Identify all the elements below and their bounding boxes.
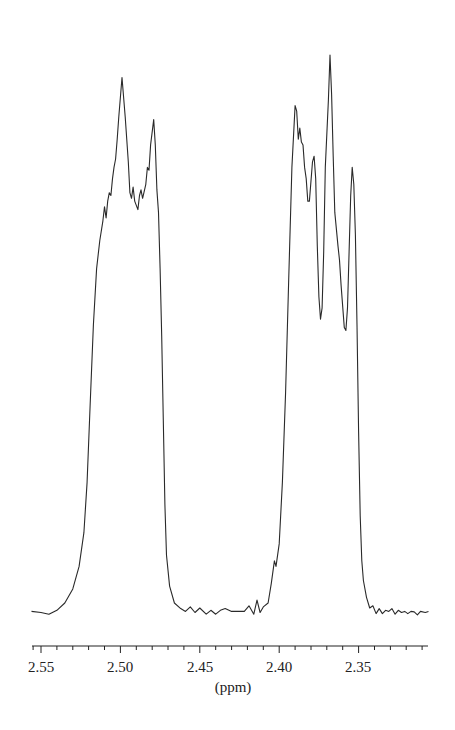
tick-label-2-40: 2.40 [266, 659, 292, 675]
x-axis-title: (ppm) [215, 679, 252, 696]
x-axis-ticks [33, 646, 422, 653]
tick-label-2-35: 2.35 [345, 659, 371, 675]
x-axis: 2.55 2.50 2.45 2.40 2.35 (ppm) [28, 646, 428, 696]
tick-label-2-55: 2.55 [28, 659, 54, 675]
tick-label-2-45: 2.45 [187, 659, 213, 675]
plot-area [32, 55, 429, 615]
tick-label-2-50: 2.50 [107, 659, 133, 675]
spectrum-trace [32, 55, 429, 615]
nmr-spectrum-chart: 2.55 2.50 2.45 2.40 2.35 (ppm) [0, 0, 455, 730]
x-axis-tick-labels: 2.55 2.50 2.45 2.40 2.35 [28, 659, 371, 675]
